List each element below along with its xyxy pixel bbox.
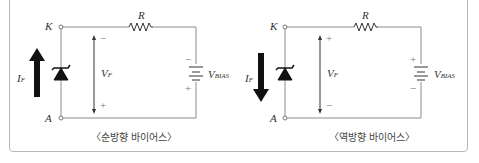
source-top-sign: − xyxy=(185,54,191,65)
vf-subscript: F xyxy=(108,71,112,79)
forward-bias-circuit xyxy=(29,21,204,120)
current-arrow-down-icon xyxy=(253,53,269,102)
source-top-sign: + xyxy=(410,54,416,65)
vf-top-sign: + xyxy=(326,33,332,44)
vbias-subscript: BIAS xyxy=(215,72,229,80)
node-a-label: A xyxy=(270,113,277,124)
vbias-subscript: BIAS xyxy=(441,72,455,80)
node-k-label: K xyxy=(270,21,277,32)
current-label: IF xyxy=(17,73,25,84)
current-label: IF xyxy=(245,73,253,84)
vf-symbol: V xyxy=(101,67,108,79)
current-arrow-up-icon xyxy=(29,48,45,97)
vf-symbol: V xyxy=(327,67,334,79)
reverse-bias-circuit xyxy=(253,21,429,120)
node-k xyxy=(59,25,63,29)
vf-label: VF xyxy=(327,68,338,79)
vbias-symbol: V xyxy=(208,68,215,80)
vbias-label: VBIAS xyxy=(434,69,455,80)
resistor-label: R xyxy=(362,10,369,21)
vf-subscript: F xyxy=(334,71,338,79)
arrowhead-up-icon xyxy=(92,35,96,40)
vf-bottom-sign: − xyxy=(326,100,332,111)
current-subscript: F xyxy=(21,76,25,84)
current-subscript: F xyxy=(249,76,253,84)
arrowhead-down-icon xyxy=(318,109,322,114)
arrowhead-down-icon xyxy=(92,109,96,114)
source-bottom-sign: − xyxy=(410,83,416,94)
node-a xyxy=(59,116,63,120)
zener-diode-icon xyxy=(276,65,294,80)
vf-top-sign: − xyxy=(100,33,106,44)
vbias-symbol: V xyxy=(434,68,441,80)
vf-bottom-sign: + xyxy=(100,100,106,111)
node-k-label: K xyxy=(45,21,52,32)
vf-label: VF xyxy=(101,68,112,79)
arrowhead-up-icon xyxy=(318,35,322,40)
node-k xyxy=(283,25,287,29)
reverse-bias-caption: 〈역방향 바이어스〉 xyxy=(329,133,415,143)
source-bottom-sign: + xyxy=(185,83,191,94)
vbias-label: VBIAS xyxy=(208,69,229,80)
node-a-label: A xyxy=(45,113,52,124)
forward-bias-caption: 〈순방향 바이어스〉 xyxy=(91,133,177,143)
resistor-label: R xyxy=(138,10,145,21)
node-a xyxy=(283,116,287,120)
zener-diode-icon xyxy=(52,65,70,80)
